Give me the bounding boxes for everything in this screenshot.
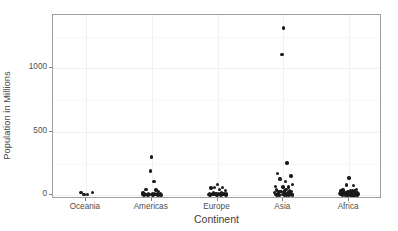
plot-panel: [52, 14, 381, 198]
data-point: [339, 192, 342, 195]
data-point: [216, 183, 219, 186]
x-tick-label-africa: Africa: [313, 203, 383, 211]
data-point: [282, 26, 285, 29]
data-point: [218, 193, 221, 196]
y-tick-label: 1000: [7, 63, 47, 71]
x-tick-mark: [151, 198, 152, 201]
gridline-minor-y: [53, 37, 380, 38]
data-point: [156, 193, 159, 196]
data-point: [352, 184, 355, 187]
gridline-major-y: [53, 68, 380, 69]
gridline-major-x: [283, 15, 284, 197]
data-point: [278, 177, 281, 180]
x-tick-label-oceania: Oceania: [50, 203, 120, 211]
gridline-minor-y: [53, 100, 380, 101]
data-point: [284, 180, 287, 183]
data-point: [146, 193, 149, 196]
x-tick-mark: [282, 198, 283, 201]
gridline-major-y: [53, 132, 380, 133]
data-point: [345, 183, 348, 186]
data-point: [151, 193, 154, 196]
data-point: [159, 193, 162, 196]
x-axis-title: Continent: [52, 213, 381, 225]
data-point: [144, 188, 147, 191]
data-point: [142, 193, 145, 196]
data-point: [91, 191, 94, 194]
y-tick-label: 0: [7, 190, 47, 198]
gridline-minor-y: [53, 164, 380, 165]
data-point: [213, 186, 216, 189]
gridline-major-x: [218, 15, 219, 197]
x-tick-mark: [85, 198, 86, 201]
data-point: [347, 176, 350, 179]
gridline-major-x: [349, 15, 350, 197]
gridline-major-x: [86, 15, 87, 197]
chart-figure: Population in Millions 05001000 OceaniaA…: [0, 0, 398, 231]
data-point: [285, 161, 288, 164]
x-tick-mark: [348, 198, 349, 201]
y-tick-label: 500: [7, 127, 47, 135]
data-point: [209, 186, 212, 189]
data-point: [150, 155, 153, 158]
data-point: [289, 174, 292, 177]
data-point: [224, 193, 227, 196]
data-point: [291, 183, 294, 186]
data-point: [208, 193, 211, 196]
data-point: [276, 172, 279, 175]
data-point: [278, 193, 281, 196]
x-tick-label-asia: Asia: [247, 203, 317, 211]
x-tick-mark: [217, 198, 218, 201]
x-tick-label-europe: Europe: [182, 203, 252, 211]
x-tick-label-americas: Americas: [116, 203, 186, 211]
data-point: [280, 53, 283, 56]
data-point: [152, 180, 155, 183]
data-point: [291, 193, 294, 196]
